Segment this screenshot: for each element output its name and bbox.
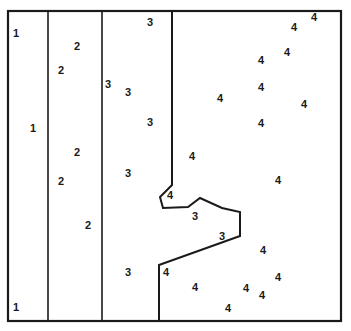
map-outer-frame [8, 11, 341, 321]
map-boundaries-svg [0, 0, 351, 331]
zone-label-1: 1 [13, 302, 19, 313]
zone-label-2: 2 [74, 147, 80, 158]
zone-label-4: 4 [189, 151, 195, 162]
zone-label-4: 4 [260, 245, 266, 256]
zone-label-2: 2 [85, 220, 91, 231]
zone-label-4: 4 [275, 272, 281, 283]
zone-label-4: 4 [243, 283, 249, 294]
zone-label-2: 2 [74, 41, 80, 52]
zone-label-4: 4 [258, 82, 264, 93]
zone-label-4: 4 [163, 267, 169, 278]
region-map-figure: 1112222233333333444444444444444444 [0, 0, 351, 331]
zone-label-4: 4 [192, 282, 198, 293]
zone-label-3: 3 [125, 267, 131, 278]
zone-label-3: 3 [147, 17, 153, 28]
zone-label-4: 4 [301, 99, 307, 110]
zone-label-3: 3 [105, 79, 111, 90]
zone-label-4: 4 [275, 175, 281, 186]
zone-label-4: 4 [258, 118, 264, 129]
zone-label-3: 3 [219, 231, 225, 242]
zone-label-4: 4 [291, 22, 297, 33]
zone-label-2: 2 [58, 176, 64, 187]
zone-label-4: 4 [217, 93, 223, 104]
zone-label-2: 2 [58, 65, 64, 76]
zone-label-4: 4 [311, 12, 317, 23]
zone-label-4: 4 [258, 55, 264, 66]
zone-label-3: 3 [147, 117, 153, 128]
zone-label-3: 3 [125, 87, 131, 98]
zone-label-1: 1 [30, 123, 36, 134]
zone-label-3: 3 [192, 211, 198, 222]
zone-label-4: 4 [259, 290, 265, 301]
zone-label-4: 4 [284, 47, 290, 58]
zone-label-4: 4 [167, 190, 173, 201]
zone-label-3: 3 [125, 168, 131, 179]
zone-label-1: 1 [13, 28, 19, 39]
zone-label-4: 4 [225, 303, 231, 314]
